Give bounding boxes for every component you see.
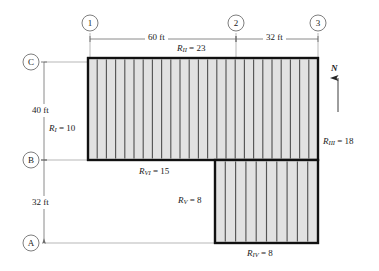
equals-sign-R-V: = <box>190 195 195 205</box>
equals-sign-R-III: = <box>337 136 342 146</box>
reaction-value-R-III: 18 <box>345 136 354 146</box>
reaction-label-R-VI: RVI = 15 <box>139 167 169 177</box>
grid-bubble-column-1[interactable]: 1 <box>82 19 98 28</box>
reaction-label-R-II: RII = 23 <box>175 44 207 54</box>
reaction-value-R-IV: 8 <box>268 248 273 258</box>
equals-sign-R-I: = <box>59 123 64 133</box>
reaction-subscript-R-III: III <box>329 139 336 146</box>
reaction-value-R-V: 8 <box>197 195 202 205</box>
lower-roof-block <box>215 160 318 243</box>
grid-bubble-column-3[interactable]: 3 <box>310 19 326 28</box>
reaction-label-R-V: RV = 8 <box>178 196 202 206</box>
north-arrow-label: N <box>331 64 338 73</box>
reaction-value-R-VI: 15 <box>160 166 169 176</box>
grid-bubble-row-a[interactable]: A <box>23 239 39 248</box>
reaction-subscript-R-I: I <box>55 126 57 133</box>
dimension-32ft-top: 32 ft <box>263 33 286 42</box>
reaction-subscript-R-V: V <box>184 198 188 205</box>
dimension-32ft-left: 32 ft <box>30 196 51 209</box>
reaction-label-R-III: RIII = 18 <box>323 137 354 147</box>
equals-sign-R-II: = <box>189 43 194 53</box>
reaction-label-R-I: RI = 10 <box>47 124 77 134</box>
dimension-40ft: 40 ft <box>30 104 51 117</box>
upper-roof-block <box>88 58 318 160</box>
dimension-60ft: 60 ft <box>145 33 168 42</box>
reaction-label-R-IV: RIV = 8 <box>247 249 273 259</box>
reaction-subscript-R-II: II <box>183 46 187 53</box>
reaction-value-R-II: 23 <box>196 43 205 53</box>
reaction-subscript-R-IV: IV <box>253 251 259 258</box>
grid-bubble-row-c[interactable]: C <box>23 58 39 67</box>
reaction-subscript-R-VI: VI <box>145 169 151 176</box>
grid-bubble-column-2[interactable]: 2 <box>228 19 244 28</box>
roof-framing-plan-figure: 1 2 3 C B A 60 ft 32 ft 40 ft 32 ft RII … <box>0 0 379 271</box>
grid-bubble-row-b[interactable]: B <box>23 156 39 165</box>
equals-sign-R-IV: = <box>261 248 266 258</box>
reaction-value-R-I: 10 <box>66 123 75 133</box>
equals-sign-R-VI: = <box>153 166 158 176</box>
